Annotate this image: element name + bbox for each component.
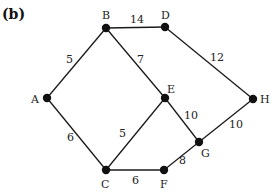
edge-a-b — [47, 28, 106, 98]
node-label-d: D — [161, 9, 170, 22]
node-label-b: B — [102, 9, 110, 22]
node-d — [161, 23, 169, 31]
node-g — [195, 138, 203, 146]
edge-d-h — [165, 27, 253, 99]
edge-weight-a-b: 5 — [66, 53, 73, 66]
edge-weight-f-g: 8 — [179, 154, 186, 167]
edge-c-e — [106, 98, 165, 170]
node-labels-group: ABCDEFGH — [30, 9, 270, 191]
node-label-e: E — [167, 83, 175, 96]
node-label-h: H — [260, 93, 270, 106]
edge-weight-b-d: 14 — [130, 13, 144, 26]
edge-weight-g-h: 10 — [229, 118, 243, 131]
edge-weight-e-g: 10 — [184, 109, 198, 122]
node-a — [43, 94, 51, 102]
edge-weight-c-f: 6 — [132, 174, 139, 187]
edge-b-e — [106, 28, 165, 98]
edge-weight-d-h: 12 — [210, 51, 224, 64]
edge-weight-b-e: 7 — [137, 53, 144, 66]
node-label-c: C — [101, 178, 109, 191]
edges-group — [47, 27, 253, 170]
edge-b-d — [106, 27, 165, 28]
figure-title: (b) — [2, 6, 25, 22]
edge-g-h — [199, 99, 253, 142]
node-f — [160, 166, 168, 174]
node-c — [102, 166, 110, 174]
nodes-group — [43, 23, 257, 174]
node-b — [102, 24, 110, 32]
edge-weight-c-e: 5 — [119, 127, 126, 140]
edge-weights-group: 56147125610108 — [66, 13, 243, 187]
node-h — [249, 95, 257, 103]
edge-a-c — [47, 98, 106, 170]
node-label-g: G — [201, 147, 210, 160]
node-label-f: F — [160, 178, 168, 191]
node-label-a: A — [30, 93, 40, 106]
edge-weight-a-c: 6 — [67, 131, 74, 144]
graph-diagram: (b) 56147125610108 ABCDEFGH — [0, 0, 278, 196]
